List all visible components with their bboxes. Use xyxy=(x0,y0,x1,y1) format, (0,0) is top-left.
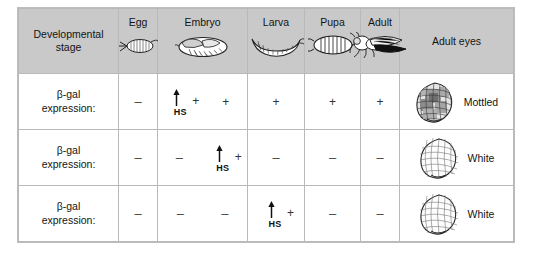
row-label-cell: β-gal expression: xyxy=(19,74,119,130)
header-pupa-label: Pupa xyxy=(320,16,345,29)
drosophila-egg-icon xyxy=(115,32,161,58)
heat-shock-arrow-icon xyxy=(267,201,276,218)
white-eye-icon xyxy=(419,137,459,179)
table-header-row: Developmental stage Egg xyxy=(19,9,514,74)
header-adult-label: Adult xyxy=(368,16,392,29)
row3-embryo-cell: – – xyxy=(158,186,248,242)
header-egg-label: Egg xyxy=(129,16,148,29)
row1-embryo-mark-1: + xyxy=(192,94,199,108)
heat-shock-arrow-icon xyxy=(172,89,181,106)
row2-label-line2: expression: xyxy=(42,158,96,170)
row3-label-line1: β-gal xyxy=(57,200,81,212)
header-adult-eyes-label: Adult eyes xyxy=(400,35,513,48)
white-eye-icon xyxy=(419,193,459,235)
row1-egg-mark: – xyxy=(134,94,141,109)
header-stage-line1: Developmental xyxy=(19,28,118,41)
row1-pupa-cell: + xyxy=(305,74,361,130)
row1-pupa-mark: + xyxy=(329,95,336,109)
row1-adult-cell: + xyxy=(361,74,400,130)
row3-embryo-mark-2: – xyxy=(221,206,228,221)
header-stage-embryo: Embryo xyxy=(158,9,248,74)
row2-larva-mark: – xyxy=(272,150,279,165)
row3-adult-mark: – xyxy=(376,206,383,221)
row-label-cell: β-gal expression: xyxy=(19,186,119,242)
row1-adult-mark: + xyxy=(376,95,383,109)
header-embryo-label: Embryo xyxy=(184,16,220,29)
row3-larva-cell: HS + xyxy=(248,186,305,242)
drosophila-adult-fly-icon xyxy=(348,32,412,60)
row2-embryo-mark-1: – xyxy=(176,150,183,165)
row1-hs-label: HS xyxy=(169,107,191,117)
header-stage-egg: Egg xyxy=(119,9,158,74)
row-label-cell: β-gal expression: xyxy=(19,130,119,186)
drosophila-embryo-icon xyxy=(172,32,234,60)
row1-label-line1: β-gal xyxy=(57,88,81,100)
stage-expression-table: Developmental stage Egg xyxy=(18,8,514,242)
header-stage-adult: Adult xyxy=(361,9,400,74)
row2-larva-cell: – xyxy=(248,130,305,186)
table-row: β-gal expression: – xyxy=(19,74,514,130)
header-stage-line2: stage xyxy=(19,41,118,54)
row2-pupa-mark: – xyxy=(329,150,336,165)
row1-eye-phenotype: Mottled xyxy=(464,96,498,108)
row1-embryo-cell: HS + + xyxy=(158,74,248,130)
row1-embryo-mark-2: + xyxy=(222,95,229,109)
row2-egg-cell: – xyxy=(119,130,158,186)
header-developmental-stage: Developmental stage xyxy=(19,9,119,74)
heat-shock-arrow-icon xyxy=(215,145,224,162)
row3-larva-hs-group: HS + xyxy=(264,201,288,227)
header-adult-eyes: Adult eyes xyxy=(400,9,514,74)
row3-label-line2: expression: xyxy=(42,214,96,226)
row2-pupa-cell: – xyxy=(305,130,361,186)
table-row: β-gal expression: – – – xyxy=(19,186,514,242)
row1-label-line2: expression: xyxy=(42,102,96,114)
mottled-eye-icon xyxy=(415,81,455,123)
drosophila-larva-icon xyxy=(248,32,304,58)
row2-embryo-mark-2: + xyxy=(235,150,242,164)
row1-larva-cell: + xyxy=(248,74,305,130)
row1-egg-cell: – xyxy=(119,74,158,130)
header-stage-larva: Larva xyxy=(248,9,305,74)
row2-embryo-cell: – HS + xyxy=(158,130,248,186)
table-row: β-gal expression: – – xyxy=(19,130,514,186)
row1-larva-mark: + xyxy=(272,95,279,109)
row2-label-line1: β-gal xyxy=(57,144,81,156)
row1-embryo-hs-group: HS + xyxy=(169,89,193,115)
row2-eye-phenotype: White xyxy=(468,152,495,164)
table-body: β-gal expression: – xyxy=(19,74,514,242)
row2-adult-mark: – xyxy=(376,150,383,165)
row3-embryo-mark-1: – xyxy=(177,206,184,221)
developmental-stage-figure: Developmental stage Egg xyxy=(18,8,513,238)
row2-egg-mark: – xyxy=(134,150,141,165)
row3-egg-mark: – xyxy=(134,206,141,221)
row3-larva-mark: + xyxy=(287,206,294,220)
row2-eye-cell: White xyxy=(400,130,514,186)
row3-pupa-cell: – xyxy=(305,186,361,242)
row3-adult-cell: – xyxy=(361,186,400,242)
row3-pupa-mark: – xyxy=(329,206,336,221)
header-larva-label: Larva xyxy=(263,16,289,29)
row3-egg-cell: – xyxy=(119,186,158,242)
row3-eye-phenotype: White xyxy=(468,208,495,220)
row1-eye-cell: Mottled xyxy=(400,74,514,130)
row3-hs-label: HS xyxy=(264,219,286,229)
row3-eye-cell: White xyxy=(400,186,514,242)
row2-embryo-hs-group: HS + xyxy=(212,145,236,171)
row2-adult-cell: – xyxy=(361,130,400,186)
row2-hs-label: HS xyxy=(212,163,234,173)
